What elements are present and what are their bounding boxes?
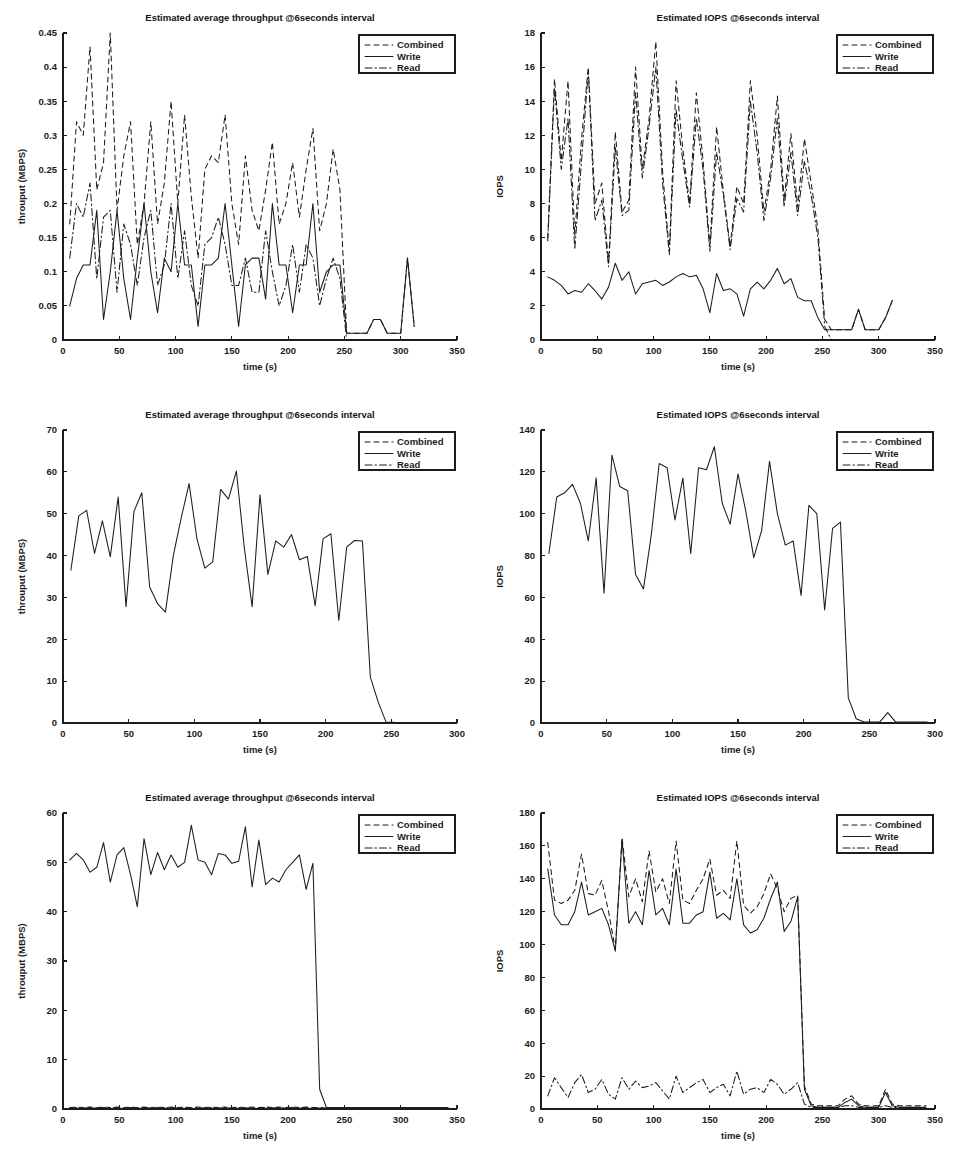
axis-spine xyxy=(541,813,935,1109)
chart-title: Estimated IOPS @6seconds interval xyxy=(657,12,820,23)
y-tick-label: 60 xyxy=(524,592,535,603)
x-axis-label: time (s) xyxy=(721,361,755,372)
x-tick-label: 0 xyxy=(538,345,543,356)
y-tick-label: 160 xyxy=(519,840,535,851)
chart-top-left-svg: Estimated average throughput @6seconds i… xyxy=(0,0,478,392)
x-tick-label: 350 xyxy=(449,345,465,356)
y-tick-label: 0 xyxy=(530,717,535,728)
y-tick-label: 120 xyxy=(519,466,535,477)
chart-middle-left-svg: Estimated average throughput @6seconds i… xyxy=(0,392,478,775)
y-tick-label: 20 xyxy=(46,634,57,645)
y-tick-label: 6 xyxy=(530,232,535,243)
y-tick-label: 0.1 xyxy=(44,266,58,277)
legend-label-read: Read xyxy=(875,459,898,470)
y-tick-label: 0.25 xyxy=(39,164,58,175)
series-group xyxy=(71,471,394,722)
x-tick-label: 300 xyxy=(393,1114,409,1125)
y-tick-label: 0 xyxy=(52,717,57,728)
x-tick-label: 100 xyxy=(168,1114,184,1125)
y-tick-label: 12 xyxy=(524,130,535,141)
x-tick-label: 300 xyxy=(927,728,943,739)
chart-title: Estimated average throughput @6seconds i… xyxy=(145,409,374,420)
chart-title: Estimated average throughput @6seconds i… xyxy=(145,792,374,803)
y-axis-label: throuput (MBPS) xyxy=(16,149,27,224)
legend-label-read: Read xyxy=(875,62,898,73)
series-line-combined xyxy=(548,42,892,330)
series-line-write xyxy=(548,263,892,330)
x-tick-label: 50 xyxy=(601,728,612,739)
chart-title: Estimated IOPS @6seconds interval xyxy=(657,792,820,803)
x-tick-label: 200 xyxy=(280,1114,296,1125)
y-tick-label: 80 xyxy=(524,972,535,983)
y-tick-label: 16 xyxy=(524,61,535,72)
y-tick-label: 60 xyxy=(46,807,57,818)
x-tick-label: 100 xyxy=(664,728,680,739)
legend-label-read: Read xyxy=(397,459,420,470)
y-axis-label: IOPS xyxy=(494,175,505,198)
x-axis-label: time (s) xyxy=(243,744,277,755)
axis-spine xyxy=(541,33,935,340)
y-tick-label: 0.3 xyxy=(44,130,57,141)
y-tick-label: 20 xyxy=(46,1005,57,1016)
x-tick-label: 100 xyxy=(186,728,202,739)
series-group xyxy=(548,838,926,1108)
series-line-write xyxy=(71,471,394,722)
x-tick-label: 250 xyxy=(814,345,830,356)
x-tick-label: 300 xyxy=(393,345,409,356)
y-tick-label: 0.15 xyxy=(39,232,58,243)
y-tick-label: 40 xyxy=(46,550,57,561)
x-tick-label: 0 xyxy=(538,1114,543,1125)
y-tick-label: 0.4 xyxy=(44,61,58,72)
x-tick-label: 0 xyxy=(538,728,543,739)
y-tick-label: 60 xyxy=(46,466,57,477)
x-tick-label: 350 xyxy=(449,1114,465,1125)
legend-label-write: Write xyxy=(397,448,421,459)
y-tick-label: 30 xyxy=(46,592,57,603)
x-tick-label: 150 xyxy=(224,345,240,356)
chart-middle-right-svg: Estimated IOPS @6seconds interval0204060… xyxy=(478,392,956,775)
y-tick-label: 40 xyxy=(524,634,535,645)
y-tick-label: 0 xyxy=(52,1103,57,1114)
legend-label-read: Read xyxy=(397,62,420,73)
legend: CombinedWriteRead xyxy=(837,432,933,470)
x-axis-label: time (s) xyxy=(721,1130,755,1141)
series-line-write xyxy=(70,825,448,1107)
legend-label-read: Read xyxy=(397,842,420,853)
chart-title: Estimated average throughput @6seconds i… xyxy=(145,12,374,23)
x-tick-label: 350 xyxy=(927,345,943,356)
x-tick-label: 200 xyxy=(796,728,812,739)
legend-label-combined: Combined xyxy=(875,436,922,447)
x-tick-label: 150 xyxy=(702,345,718,356)
y-tick-label: 30 xyxy=(46,955,57,966)
legend: CombinedWriteRead xyxy=(359,815,455,853)
legend-label-combined: Combined xyxy=(875,39,922,50)
series-group xyxy=(70,33,414,340)
legend-label-write: Write xyxy=(875,51,899,62)
legend-label-read: Read xyxy=(875,842,898,853)
chart-bottom-left-svg: Estimated average throughput @6seconds i… xyxy=(0,775,478,1172)
y-tick-label: 0 xyxy=(530,334,535,345)
x-tick-label: 50 xyxy=(123,728,134,739)
y-tick-label: 120 xyxy=(519,906,535,917)
x-tick-label: 250 xyxy=(814,1114,830,1125)
y-tick-label: 40 xyxy=(524,1038,535,1049)
y-tick-label: 50 xyxy=(46,857,57,868)
y-tick-label: 140 xyxy=(519,424,535,435)
y-tick-label: 14 xyxy=(524,96,535,107)
x-tick-label: 250 xyxy=(383,728,399,739)
y-tick-label: 10 xyxy=(524,164,535,175)
x-tick-label: 200 xyxy=(280,345,296,356)
legend-label-write: Write xyxy=(875,448,899,459)
y-tick-label: 0.35 xyxy=(39,96,58,107)
x-tick-label: 200 xyxy=(758,1114,774,1125)
legend: CombinedWriteRead xyxy=(837,35,933,73)
x-tick-label: 0 xyxy=(60,728,65,739)
legend-label-combined: Combined xyxy=(397,39,444,50)
y-tick-label: 40 xyxy=(46,906,57,917)
chart-title: Estimated IOPS @6seconds interval xyxy=(657,409,820,420)
x-tick-label: 100 xyxy=(168,345,184,356)
series-line-combined xyxy=(548,838,926,1106)
y-tick-label: 20 xyxy=(524,675,535,686)
chart-middle-right: Estimated IOPS @6seconds interval0204060… xyxy=(478,392,956,775)
x-tick-label: 300 xyxy=(871,1114,887,1125)
